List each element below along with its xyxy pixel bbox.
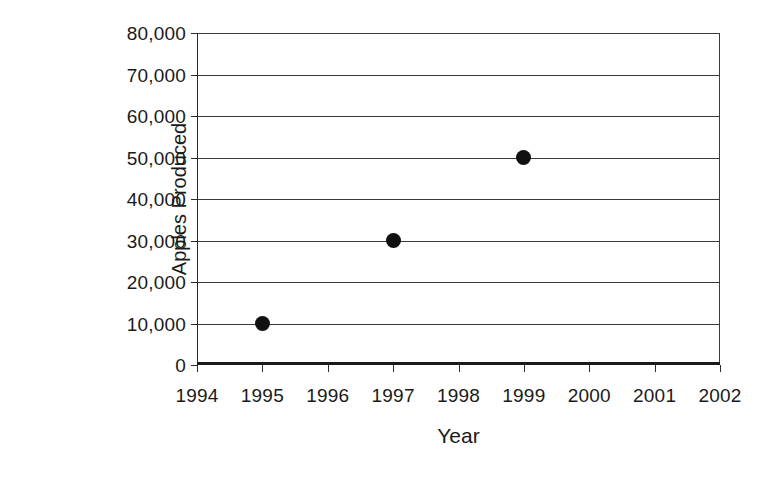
- y-tick-label: 60,000: [66, 107, 186, 126]
- x-axis-tick: [720, 365, 721, 372]
- x-axis-tick: [262, 365, 263, 372]
- x-axis-title: Year: [197, 424, 720, 448]
- y-axis-line: [197, 33, 198, 365]
- data-point: [255, 316, 270, 331]
- gridline: [197, 33, 720, 34]
- y-tick-label: 50,000: [66, 149, 186, 168]
- data-point: [386, 233, 401, 248]
- y-tick-label: 40,000: [66, 190, 186, 209]
- plot-frame-right: [719, 33, 720, 365]
- gridline: [197, 324, 720, 325]
- x-axis-tick: [328, 365, 329, 372]
- gridline: [197, 199, 720, 200]
- y-tick-label: 80,000: [66, 24, 186, 43]
- x-axis-tick: [393, 365, 394, 372]
- gridline: [197, 241, 720, 242]
- x-axis-tick: [459, 365, 460, 372]
- y-tick-label: 30,000: [66, 232, 186, 251]
- gridline: [197, 116, 720, 117]
- x-tick-label: 2002: [675, 386, 765, 405]
- x-axis-tick: [197, 365, 198, 372]
- y-tick-label: 0: [66, 356, 186, 375]
- plot-area: Apples Produced: [197, 33, 720, 365]
- gridline: [197, 282, 720, 283]
- x-axis-tick: [589, 365, 590, 372]
- data-point: [516, 150, 531, 165]
- y-tick-label: 70,000: [66, 66, 186, 85]
- x-axis-tick: [655, 365, 656, 372]
- y-tick-label: 20,000: [66, 273, 186, 292]
- y-tick-label: 10,000: [66, 315, 186, 334]
- gridline: [197, 75, 720, 76]
- x-axis-tick: [524, 365, 525, 372]
- gridline: [197, 158, 720, 159]
- chart-figure: Apples Produced 010,00020,00030,00040,00…: [0, 0, 780, 477]
